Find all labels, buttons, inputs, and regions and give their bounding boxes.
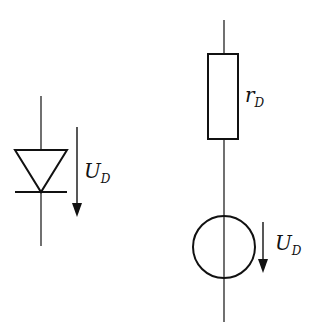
diode-triangle — [15, 150, 67, 192]
diode-symbol — [15, 96, 67, 246]
source-voltage-label: UD — [275, 231, 302, 258]
arrowhead-down-icon — [72, 203, 82, 217]
diode-voltage-arrow — [72, 127, 82, 217]
resistor-symbol — [208, 54, 238, 139]
diagram-canvas: UD rD UD — [0, 0, 323, 336]
resistor-label: rD — [245, 83, 265, 110]
source-voltage-arrow — [258, 222, 268, 273]
diode-voltage-label: UD — [84, 159, 111, 186]
arrowhead-down-icon — [258, 259, 268, 273]
